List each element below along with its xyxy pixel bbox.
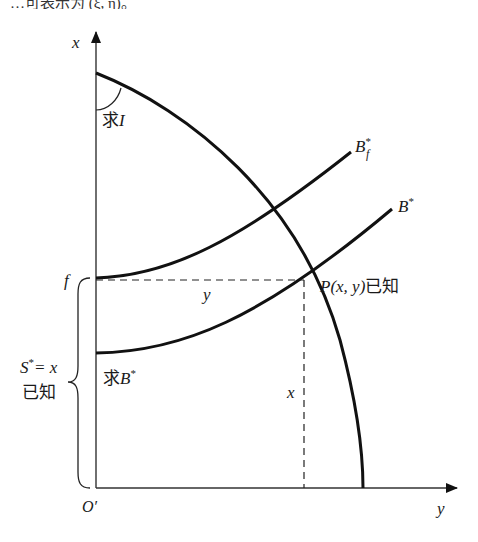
origin-label: O′	[82, 498, 98, 515]
angle-arc-icon	[96, 88, 121, 110]
y-axis-label: y	[435, 499, 445, 518]
x-segment-label: x	[286, 383, 295, 402]
brace-annotation-line2: 已知	[22, 383, 56, 402]
find-b-star-label: 求B*	[103, 367, 136, 388]
angle-label: 求I	[102, 111, 126, 130]
curly-brace	[68, 278, 90, 488]
curve-bf-star-label: B*f	[355, 135, 371, 161]
f-tick-label: f	[64, 271, 71, 290]
y-segment-label: y	[201, 285, 211, 304]
x-axis-label: x	[71, 33, 80, 52]
diagram-canvas: x y O′ 求I B*f B* f y x P(x, y)已知 求B* S*=…	[0, 0, 478, 542]
curve-bf-star	[96, 152, 351, 278]
brace-annotation-line1: S*= x	[20, 356, 58, 377]
curve-b-star-label: B*	[398, 195, 414, 216]
point-p-label: P(x, y)已知	[319, 277, 399, 296]
